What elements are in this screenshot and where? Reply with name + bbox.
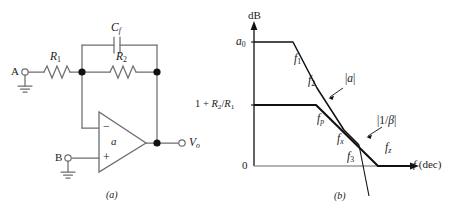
- annotation-fz-subscript: z: [388, 146, 391, 155]
- resistor-r1-letter: R: [50, 50, 57, 62]
- caption-a: (a): [106, 190, 118, 200]
- resistor-r1-subscript: 1: [57, 55, 61, 64]
- terminal-b-label: B: [55, 152, 62, 163]
- abs-bar-right: |: [353, 72, 355, 84]
- capacitor-cf-label: Cf: [111, 22, 121, 35]
- resistor-r2-subscript: 2: [123, 55, 127, 64]
- output-voltage-subscript: o: [196, 141, 200, 150]
- terminal-b-node: [65, 155, 71, 161]
- ytick-mid-prefix: 1 +: [195, 98, 211, 109]
- y-axis-title: dB: [248, 10, 261, 21]
- resistor-r2-symbol: [110, 66, 136, 78]
- annotation-f1-subscript: 1: [297, 57, 301, 66]
- annotation-f2-subscript: 2: [311, 79, 315, 88]
- y-axis-arrowhead: [251, 21, 258, 30]
- open-loop-gain-annotation-arrow: [329, 88, 344, 100]
- bode-plot: [230, 0, 460, 216]
- annotation-fx-subscript: x: [340, 137, 343, 146]
- terminal-a-label: A: [11, 66, 19, 77]
- annotation-fp-subscript: p: [320, 117, 324, 126]
- curve-label-inverse-feedback-factor: |1/β|: [377, 115, 396, 127]
- opamp-inverting-sign: −: [103, 120, 110, 132]
- annotation-f1: f1: [294, 53, 301, 66]
- output-voltage-letter: V: [189, 136, 196, 148]
- annotation-fx: fx: [337, 133, 344, 146]
- output-terminal-node: [179, 140, 185, 146]
- junction-dot-output: [153, 139, 160, 146]
- annotation-fz: fz: [385, 142, 391, 155]
- ytick-mid-r1-sub: 1: [231, 103, 235, 111]
- opamp-gain-label: a: [111, 136, 117, 147]
- terminal-a-node: [22, 69, 28, 75]
- x-axis-title: f (dec): [413, 159, 441, 170]
- annotation-f3-subscript: 3: [350, 155, 354, 164]
- ytick-label-closed-loop-gain: 1 + R2/R1: [195, 99, 234, 111]
- output-voltage-label: Vo: [189, 137, 200, 150]
- junction-dot-inverting: [78, 68, 85, 75]
- abs-bar-right-2: |: [394, 114, 396, 126]
- opamp-noninverting-sign: +: [103, 151, 110, 163]
- curve-label-one-over: 1/: [379, 114, 388, 126]
- curve-label-open-loop-gain: |a|: [345, 73, 355, 85]
- x-axis-title-unit: (dec): [416, 158, 441, 170]
- resistor-r2-label: R2: [116, 51, 127, 64]
- plot-axes: [251, 21, 419, 169]
- ytick-a0-subscript: 0: [242, 40, 246, 49]
- inverse-feedback-annotation-arrow: [367, 127, 383, 139]
- annotation-fp: fp: [317, 113, 324, 126]
- junction-dot-feedback: [153, 68, 160, 75]
- resistor-r2-letter: R: [116, 50, 123, 62]
- resistor-r1-label: R1: [50, 51, 61, 64]
- capacitor-subscript: f: [119, 26, 121, 35]
- annotation-f3: f3: [347, 151, 354, 164]
- ytick-label-a0: a0: [236, 36, 246, 49]
- open-loop-gain-curve: [254, 42, 359, 145]
- figure-container: A B R1 R2 Cf − + a Vo (a): [0, 0, 460, 216]
- resistor-r1-symbol: [44, 66, 70, 78]
- capacitor-letter: C: [111, 21, 119, 33]
- caption-b: (b): [334, 191, 346, 201]
- annotation-f2: f2: [308, 75, 315, 88]
- ytick-label-zero: 0: [242, 160, 248, 171]
